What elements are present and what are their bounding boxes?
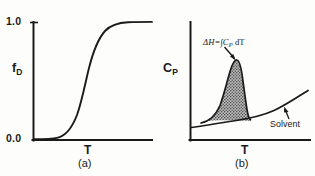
enthalpy-integral-annotation: ΔH=∫CP dT xyxy=(203,38,245,47)
panel-b-plot xyxy=(158,0,315,176)
enthalpy-integral-suffix: dT xyxy=(233,37,245,47)
panel-a: 1.0 0.0 fD T (a) xyxy=(0,0,158,176)
panel-a-y-axis-label: fD xyxy=(12,62,22,75)
figure-root: 1.0 0.0 fD T (a) xyxy=(0,0,315,176)
panel-b: CP ΔH=∫CP dT Solvent T (b) xyxy=(158,0,315,176)
panel-b-x-axis-label: T xyxy=(241,144,249,156)
panel-b-y-axis-label-sub: P xyxy=(172,67,178,77)
solvent-baseline-label: Solvent xyxy=(270,120,300,129)
panel-a-caption: (a) xyxy=(78,158,91,169)
panel-b-y-axis-label: CP xyxy=(163,62,178,75)
panel-b-solvent-arrow-head xyxy=(284,107,289,113)
panel-a-y-axis-label-sub: D xyxy=(16,67,22,77)
panel-a-ytick-bottom: 0.0 xyxy=(6,133,21,144)
panel-b-peak-fill xyxy=(201,60,251,123)
enthalpy-integral-subscript: P xyxy=(229,41,233,48)
panel-a-ytick-top: 1.0 xyxy=(6,16,21,27)
panel-b-y-axis-label-main: C xyxy=(163,61,172,75)
panel-b-caption: (b) xyxy=(235,158,248,169)
panel-a-x-axis-label: T xyxy=(84,144,92,156)
panel-a-sigmoid-curve xyxy=(34,22,152,139)
enthalpy-integral-prefix: ΔH=∫C xyxy=(203,37,229,47)
panel-a-plot xyxy=(0,0,158,176)
